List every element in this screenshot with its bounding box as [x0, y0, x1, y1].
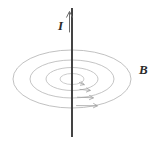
field-diagram-canvas	[0, 0, 162, 144]
current-label-I: I	[58, 19, 63, 32]
field-direction-arrowheads-group	[77, 82, 98, 108]
physics-diagram-figure: I B	[0, 0, 162, 144]
magnetic-field-label-B: B	[139, 63, 148, 76]
field-arrowhead-icon-3	[78, 96, 94, 100]
